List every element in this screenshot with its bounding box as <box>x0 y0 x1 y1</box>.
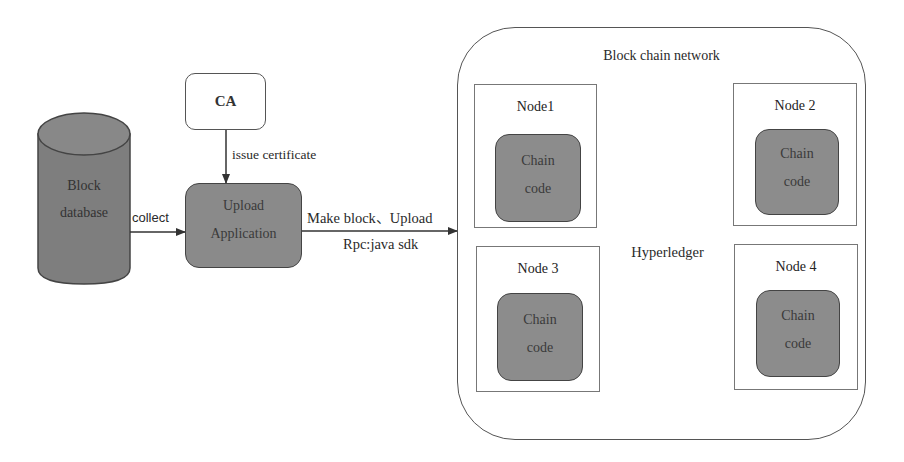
chaincode-label-line2: code <box>498 340 582 356</box>
chaincode-label-line1: Chain <box>757 308 839 324</box>
chaincode-label-line1: Chain <box>498 312 582 328</box>
block-database-cylinder <box>38 113 130 284</box>
collect-label: collect <box>132 210 169 225</box>
node-3-chaincode: Chain code <box>497 293 583 381</box>
chaincode-label-line2: code <box>756 174 838 190</box>
upload-application-box: Upload Application <box>185 183 302 268</box>
blockchain-network-title: Block chain network <box>457 48 866 64</box>
upload-application-label-line1: Upload <box>186 198 301 214</box>
chaincode-label-line2: code <box>496 181 580 197</box>
node-1-title: Node1 <box>475 99 596 115</box>
node-3-title: Node 3 <box>477 261 599 277</box>
node-2-chaincode: Chain code <box>755 129 839 215</box>
hyperledger-label: Hyperledger <box>608 244 727 261</box>
node-2-title: Node 2 <box>734 98 856 114</box>
rpc-java-sdk-label: Rpc:java sdk <box>343 236 418 253</box>
node-1: Node1 Chain code <box>474 84 597 228</box>
architecture-diagram: Block database collect CA issue certific… <box>0 0 904 462</box>
node-4-title: Node 4 <box>735 259 857 275</box>
issue-certificate-label: issue certificate <box>232 147 316 163</box>
block-database-label-line2: database <box>38 205 130 221</box>
block-database-label-line1: Block <box>38 178 130 194</box>
make-block-upload-label: Make block、Upload <box>307 206 433 227</box>
chaincode-label-line1: Chain <box>496 153 580 169</box>
node-2: Node 2 Chain code <box>733 83 857 226</box>
node-1-chaincode: Chain code <box>495 134 581 222</box>
chaincode-label-line1: Chain <box>756 146 838 162</box>
ca-label: CA <box>186 74 265 129</box>
upload-application-label-line2: Application <box>186 226 301 242</box>
ca-box: CA <box>185 73 266 130</box>
node-4: Node 4 Chain code <box>734 244 858 390</box>
node-3: Node 3 Chain code <box>476 246 600 392</box>
chaincode-label-line2: code <box>757 336 839 352</box>
node-4-chaincode: Chain code <box>756 290 840 377</box>
